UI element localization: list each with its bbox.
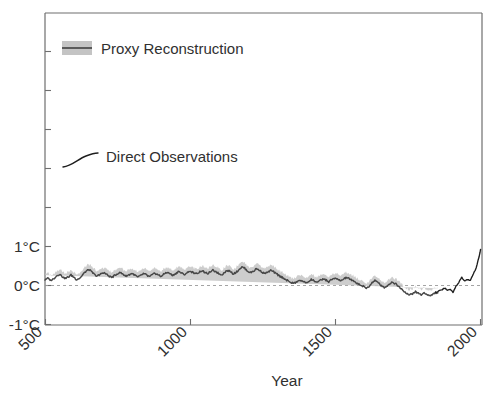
- x-axis-title: Year: [271, 372, 302, 389]
- y-tick-label-1c: 1°C: [14, 238, 40, 255]
- legend-label-proxy-reconstruction: Proxy Reconstruction: [101, 40, 244, 57]
- figure-background: [0, 0, 501, 396]
- legend-label-direct-observations: Direct Observations: [106, 148, 238, 165]
- legend-entry-proxy-reconstruction: Proxy Reconstruction: [62, 40, 244, 57]
- y-tick-label-0c: 0°C: [14, 277, 40, 294]
- chart-svg: 1°C 0°C -1°C 500 1000 1500 2000 Year Pro…: [0, 0, 501, 396]
- chart-figure: 1°C 0°C -1°C 500 1000 1500 2000 Year Pro…: [0, 0, 501, 396]
